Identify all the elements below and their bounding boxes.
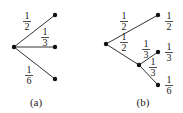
label-b-edge-3: 1 3 [142, 38, 150, 60]
label-b-edge-2: 1 2 [120, 31, 128, 53]
label-b-edge-4: 1 3 [149, 56, 157, 78]
label-a-third: 1 3 [41, 26, 49, 48]
numerator: 1 [27, 64, 32, 75]
denominator: 2 [25, 21, 30, 32]
leaf-label-b-1: 1 2 [165, 10, 173, 32]
leaf-node-a-3 [53, 77, 57, 81]
numerator: 1 [167, 74, 172, 85]
denominator: 6 [167, 85, 172, 96]
leaf-node-b-3 [156, 83, 160, 87]
leaf-node-a-1 [53, 13, 57, 17]
label-a-half: 1 2 [23, 10, 31, 32]
label-a-sixth: 1 6 [25, 64, 33, 86]
root-node-b [104, 42, 108, 46]
leaf-node-a-2 [53, 45, 57, 49]
denominator: 3 [43, 37, 48, 48]
denominator: 2 [122, 42, 127, 53]
denominator: 3 [167, 52, 172, 63]
label-b-edge-1: 1 2 [120, 10, 128, 32]
numerator: 1 [144, 38, 149, 49]
internal-node-b [137, 63, 141, 67]
numerator: 1 [122, 31, 127, 42]
denominator: 3 [151, 67, 156, 78]
caption-a: (a) [30, 96, 43, 109]
edge-a-sixth [14, 47, 55, 79]
tree-a: 1 2 1 3 1 6 (a) [12, 10, 57, 109]
probability-tree-figure: 1 2 1 3 1 6 (a) 1 2 1 [0, 0, 183, 113]
numerator: 1 [151, 56, 156, 67]
leaf-node-b-2 [156, 50, 160, 54]
root-node-a [12, 45, 16, 49]
denominator: 2 [167, 21, 172, 32]
numerator: 1 [25, 10, 30, 21]
numerator: 1 [122, 10, 127, 21]
numerator: 1 [167, 41, 172, 52]
edge-b-top [106, 15, 158, 44]
edge-a-half [14, 15, 55, 47]
leaf-label-b-3: 1 6 [165, 74, 173, 96]
caption-b: (b) [137, 96, 150, 109]
leaf-label-b-2: 1 3 [165, 41, 173, 63]
leaf-node-b-1 [156, 13, 160, 17]
tree-b: 1 2 1 2 1 3 1 3 1 2 1 3 1 [104, 10, 173, 109]
numerator: 1 [43, 26, 48, 37]
denominator: 6 [27, 75, 32, 86]
denominator: 3 [144, 49, 149, 60]
numerator: 1 [167, 10, 172, 21]
